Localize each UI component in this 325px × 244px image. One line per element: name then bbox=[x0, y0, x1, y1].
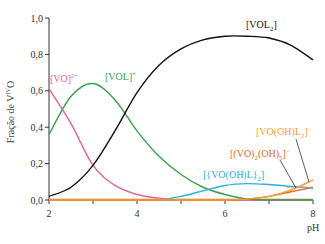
curve--vo-2- bbox=[49, 89, 313, 200]
y-tick-label: 0,6 bbox=[31, 85, 44, 96]
x-tick-label: 8 bbox=[311, 208, 316, 219]
y-tick-label: 0,8 bbox=[31, 49, 44, 60]
y-tick-label: 0,0 bbox=[31, 195, 44, 206]
y-tick-label: 1,0 bbox=[31, 13, 44, 24]
leader-vooh-l2 bbox=[296, 139, 309, 182]
x-tick-label: 6 bbox=[223, 208, 228, 219]
label-vo2plus: [VO]2+ bbox=[50, 73, 78, 84]
axes: 0,00,20,40,60,81,02468 bbox=[31, 13, 316, 220]
curve--vo-oh-l-2- bbox=[49, 184, 313, 201]
x-tick-label: 2 bbox=[47, 208, 52, 219]
curve--vol- bbox=[49, 83, 313, 200]
curve--vo-2-oh-5- bbox=[49, 187, 313, 200]
curves bbox=[49, 36, 313, 200]
label-vol2: [VOL2] bbox=[246, 19, 277, 33]
label-vooh-l2: [VO(OH)L2]− bbox=[256, 126, 312, 140]
label-vo2oh5: [(VO)2(OH)5]− bbox=[230, 148, 290, 162]
label-dimer: [{VO(OH)L}2] bbox=[203, 169, 264, 183]
x-tick-label: 4 bbox=[135, 208, 140, 219]
curve--vol2- bbox=[49, 36, 313, 197]
y-tick-label: 0,4 bbox=[31, 122, 44, 133]
label-volplus: [VOL]+ bbox=[105, 71, 136, 82]
y-tick-label: 0,2 bbox=[31, 158, 44, 169]
speciation-chart: 0,00,20,40,60,81,02468 Fração de VIVO pH… bbox=[0, 0, 325, 244]
leader-vo2oh5 bbox=[280, 160, 296, 188]
x-axis-label: pH bbox=[307, 222, 319, 233]
y-axis-label: Fração de VIVO bbox=[5, 81, 16, 143]
